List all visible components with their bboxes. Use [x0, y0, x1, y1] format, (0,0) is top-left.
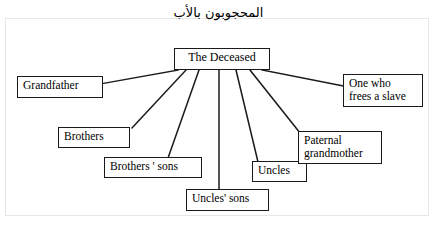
node-grandfather[interactable]: Grandfather	[17, 76, 103, 98]
edge-to-brothers-sons	[168, 70, 199, 158]
edge-to-paternal-grandmother	[250, 70, 300, 133]
node-the-deceased-label: The Deceased	[188, 50, 256, 64]
node-paternal-grandmother[interactable]: Paternal grandmother	[298, 131, 382, 164]
edge-to-brothers	[132, 70, 186, 128]
node-grandfather-label: Grandfather	[23, 79, 79, 91]
node-paternal-grandmother-label-line2: grandmother	[304, 147, 376, 160]
node-uncles-label: Uncles	[258, 164, 290, 176]
diagram-page: المحجوبون بالأب The Deceased Grandfather…	[0, 0, 437, 227]
node-paternal-grandmother-label-line1: Paternal	[304, 134, 376, 147]
node-brothers-label: Brothers	[64, 130, 104, 142]
node-uncles-sons[interactable]: Uncles' sons	[186, 189, 269, 211]
node-the-deceased[interactable]: The Deceased	[174, 48, 270, 70]
node-brothers-sons[interactable]: Brothers ' sons	[104, 157, 202, 178]
node-one-who-frees-a-slave[interactable]: One who frees a slave	[343, 74, 423, 107]
node-brothers[interactable]: Brothers	[58, 127, 130, 148]
node-one-who-frees-a-slave-label-line1: One who	[349, 77, 417, 90]
edge-to-grandfather	[100, 70, 178, 84]
node-one-who-frees-a-slave-label-line2: frees a slave	[349, 90, 417, 103]
node-brothers-sons-label: Brothers ' sons	[110, 160, 178, 172]
edge-to-uncles	[236, 70, 258, 162]
node-uncles[interactable]: Uncles	[252, 161, 307, 182]
node-uncles-sons-label: Uncles' sons	[192, 192, 249, 204]
edge-to-one-who-frees-a-slave	[262, 70, 344, 86]
